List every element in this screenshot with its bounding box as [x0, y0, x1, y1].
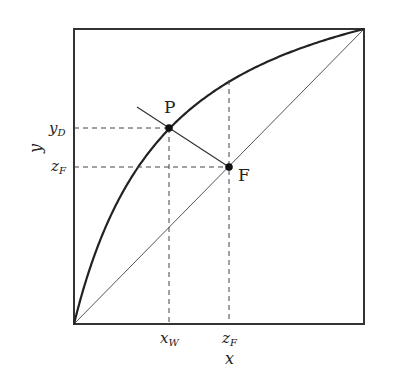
diagonal-line: [74, 29, 364, 324]
tick-label-zf-x: zF: [221, 329, 238, 348]
point-f-marker: [225, 163, 233, 171]
point-f-label: F: [238, 165, 250, 185]
tick-label-xw: xW: [160, 329, 179, 348]
tick-label-yd: yD: [48, 119, 66, 138]
y-axis-label: y: [26, 143, 45, 154]
tick-label-zf-y: zF: [50, 157, 67, 176]
point-p-label: P: [164, 97, 175, 117]
mccabe-thiele-diagram: P F yD zF xW zF x y: [0, 0, 393, 379]
point-p-marker: [165, 124, 173, 132]
x-axis-label: x: [225, 349, 234, 368]
